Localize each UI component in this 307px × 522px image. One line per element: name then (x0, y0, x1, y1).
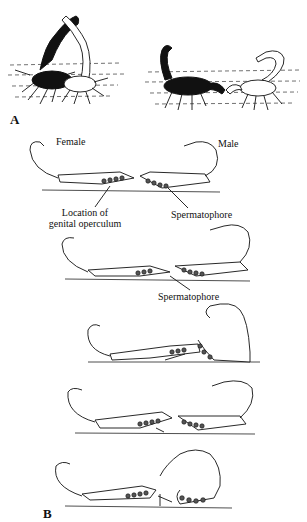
figure-drawing (0, 0, 307, 522)
panel-a-right-scene (145, 45, 300, 110)
panel-b-stage-4 (68, 381, 255, 434)
panel-a-label: A (10, 112, 19, 128)
spermatophore-label-2: Spermatophore (158, 291, 219, 302)
male-label: Male (218, 138, 239, 149)
panel-b-label: B (43, 506, 52, 522)
panel-b-stage-1 (30, 142, 220, 208)
panel-b-stage-5 (56, 450, 232, 508)
female-label: Female (56, 136, 85, 147)
genital-operculum-line-1: Location of (42, 207, 128, 218)
panel-b-stage-3 (88, 304, 260, 362)
spermatophore-label-1: Spermatophore (171, 209, 232, 220)
genital-operculum-label: Location of genital operculum (42, 207, 128, 229)
panel-a-left-scene (8, 16, 125, 104)
genital-operculum-line-2: genital operculum (42, 218, 128, 229)
panel-b-stage-2 (62, 225, 250, 290)
